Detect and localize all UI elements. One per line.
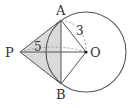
diagram-canvas: P A B O 5 3 <box>0 0 132 108</box>
label-b: B <box>56 87 66 102</box>
label-o: O <box>90 45 101 60</box>
label-a: A <box>55 3 66 18</box>
center-dot-o <box>84 50 87 53</box>
measure-ao: 3 <box>76 24 84 38</box>
geometry-figure: P A B O 5 3 <box>0 0 132 108</box>
radius-ob <box>61 52 86 84</box>
label-p: P <box>5 45 14 60</box>
measure-po: 5 <box>34 40 42 54</box>
